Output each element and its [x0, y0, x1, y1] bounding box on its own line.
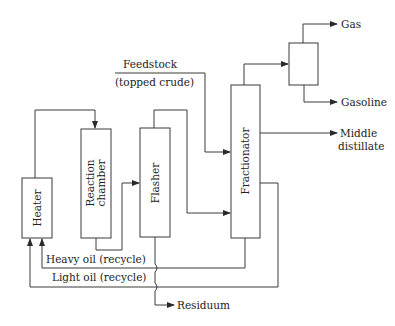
fractionator-label: Fractionator [239, 127, 251, 195]
feedstock-label: Feedstock [123, 58, 178, 70]
heavy-oil-label: Heavy oil (recycle) [46, 253, 146, 265]
residuum-label: Residuum [177, 299, 230, 311]
feedstock-sublabel: (topped crude) [115, 76, 194, 88]
gas-label: Gas [341, 18, 361, 30]
residuum-pipe [155, 237, 174, 305]
fractionator-overhead-pipe [244, 64, 288, 85]
gasoline-label: Gasoline [341, 96, 387, 108]
middle-distillate-label-line2: distillate [338, 140, 384, 152]
reaction-chamber-label-line2: chamber [95, 159, 107, 207]
process-flow-diagram: Heater Reaction chamber Flasher Fraction… [0, 0, 395, 326]
gasoline-outlet-pipe [304, 85, 337, 102]
light-oil-label: Light oil (recycle) [52, 271, 146, 283]
heater-label: Heater [31, 188, 43, 226]
separator-unit [289, 43, 318, 85]
middle-distillate-label-line1: Middle [340, 127, 377, 139]
flasher-label: Flasher [149, 162, 161, 203]
gas-outlet-pipe [303, 24, 337, 43]
